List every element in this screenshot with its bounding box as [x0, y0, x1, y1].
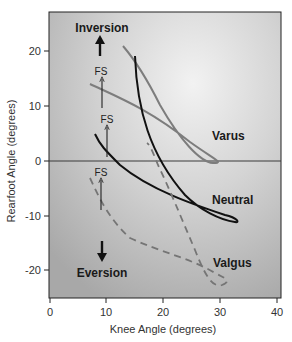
y-tick-label: 0	[35, 155, 41, 167]
x-tick-label: 20	[157, 306, 169, 318]
x-tick-label: 30	[214, 306, 226, 318]
inversion-label: Inversion	[75, 21, 128, 35]
x-axis-title: Knee Angle (degrees)	[110, 323, 216, 335]
varus-label: Varus	[212, 129, 245, 143]
y-tick-label: -10	[25, 210, 41, 222]
y-tick-label: 20	[29, 45, 41, 57]
fs-label-varus: FS	[95, 66, 108, 77]
x-tick-label: 10	[100, 306, 112, 318]
eversion-label: Eversion	[77, 266, 128, 280]
valgus-label: Valgus	[213, 256, 252, 270]
chart-figure: 20 10 0 -10 -20 Rearfoot Angle (degrees)…	[0, 0, 292, 342]
x-tick-label: 0	[47, 306, 53, 318]
y-axis-title: Rearfoot Angle (degrees)	[5, 100, 17, 223]
x-axis: 0 10 20 30 40 Knee Angle (degrees)	[47, 298, 283, 335]
y-tick-label: 10	[29, 100, 41, 112]
fs-label-valgus: FS	[95, 167, 108, 178]
y-tick-label: -20	[25, 264, 41, 276]
x-tick-label: 40	[271, 306, 283, 318]
neutral-label: Neutral	[212, 193, 253, 207]
fs-label-neutral: FS	[101, 114, 114, 125]
y-axis: 20 10 0 -10 -20 Rearfoot Angle (degrees)	[5, 45, 49, 276]
